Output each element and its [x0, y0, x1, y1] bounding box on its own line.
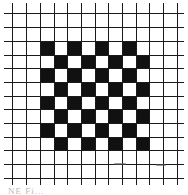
filled-square	[95, 68, 109, 83]
grid-line-horizontal	[4, 68, 184, 69]
grid-line-vertical	[54, 3, 55, 185]
filled-square	[122, 68, 137, 83]
filled-square	[122, 41, 137, 56]
filled-square	[81, 137, 96, 151]
grid-line-vertical	[177, 3, 178, 185]
grid-line-horizontal	[4, 96, 184, 97]
pencil-smudge	[114, 163, 126, 165]
grid-line-vertical	[26, 3, 27, 185]
filled-square	[67, 123, 82, 138]
grid-line-vertical	[163, 3, 164, 185]
grid-line-vertical	[81, 3, 82, 185]
filled-square	[108, 109, 123, 124]
filled-square	[136, 55, 150, 69]
filled-square	[40, 68, 55, 83]
filled-square	[108, 55, 123, 69]
grid-line-vertical	[95, 3, 96, 185]
grid-line-horizontal	[4, 150, 184, 151]
grid-line-vertical	[67, 3, 68, 185]
filled-square	[81, 82, 96, 97]
grid-line-horizontal	[4, 82, 184, 83]
pencil-smudge	[156, 164, 166, 166]
filled-square	[40, 41, 55, 56]
grid-line-vertical	[108, 3, 109, 185]
grid-line-horizontal	[4, 178, 184, 179]
filled-square	[40, 123, 55, 138]
filled-square	[67, 96, 82, 110]
grid-line-vertical	[12, 3, 13, 185]
filled-square	[81, 109, 96, 124]
grid-line-vertical	[40, 3, 41, 185]
grid-line-horizontal	[4, 123, 184, 124]
grid-line-horizontal	[4, 109, 184, 110]
grid-line-vertical	[122, 3, 123, 185]
filled-square	[81, 55, 96, 69]
filled-square	[54, 55, 68, 69]
filled-square	[95, 123, 109, 138]
grid-line-horizontal	[4, 41, 184, 42]
filled-square	[54, 137, 68, 151]
filled-square	[95, 41, 109, 56]
filled-square	[67, 68, 82, 83]
filled-square	[122, 96, 137, 110]
grid-line-vertical	[136, 3, 137, 185]
filled-square	[95, 96, 109, 110]
grid-line-horizontal	[4, 137, 184, 138]
figure-caption: NE Fi...	[8, 186, 45, 195]
filled-square	[54, 82, 68, 97]
filled-square	[40, 96, 55, 110]
filled-square	[122, 123, 137, 138]
grid-line-horizontal	[4, 13, 184, 14]
grid-line-vertical	[149, 3, 150, 185]
filled-square	[54, 109, 68, 124]
grid-line-horizontal	[4, 55, 184, 56]
filled-square	[108, 137, 123, 151]
filled-square	[67, 41, 82, 56]
filled-square	[136, 137, 150, 151]
filled-square	[136, 82, 150, 97]
filled-square	[136, 109, 150, 124]
filled-square	[108, 82, 123, 97]
grid-line-horizontal	[4, 27, 184, 28]
